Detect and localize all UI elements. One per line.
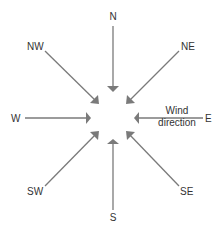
arrow-n — [107, 26, 119, 92]
wind-label-line1: Wind — [166, 105, 189, 116]
label-e: E — [205, 113, 212, 124]
label-nw: NW — [27, 41, 44, 52]
wind-label-line2: direction — [158, 117, 196, 128]
label-sw: SW — [27, 186, 44, 197]
arrow-w — [25, 112, 91, 124]
label-ne: NE — [181, 41, 195, 52]
label-se: SE — [180, 186, 194, 197]
label-s: S — [110, 212, 117, 223]
arrow-nw — [45, 51, 99, 104]
label-n: N — [109, 11, 116, 22]
arrow-sw — [45, 131, 99, 186]
arrow-ne — [126, 51, 179, 104]
arrow-se — [126, 131, 179, 186]
wind-direction-diagram: N NE E Wind direction SE S SW W NW — [0, 0, 222, 234]
label-w: W — [11, 113, 21, 124]
arrow-s — [107, 139, 119, 210]
